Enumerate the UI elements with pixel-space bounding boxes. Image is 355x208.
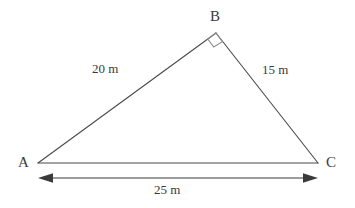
geometry-diagram: A B C 20 m 15 m 25 m bbox=[0, 0, 355, 208]
dimension-arrowhead-right-icon bbox=[303, 173, 318, 183]
triangle-side-bc bbox=[216, 33, 318, 163]
vertex-label-b: B bbox=[210, 9, 220, 24]
dimension-arrowhead-left-icon bbox=[38, 173, 53, 183]
vertex-label-a: A bbox=[18, 155, 29, 170]
side-label-ac: 25 m bbox=[154, 183, 180, 196]
triangle-drawing bbox=[0, 0, 355, 208]
side-label-ab: 20 m bbox=[92, 62, 118, 75]
right-angle-marker-icon bbox=[208, 33, 223, 47]
side-label-bc: 15 m bbox=[262, 63, 288, 76]
vertex-label-c: C bbox=[326, 155, 336, 170]
triangle-side-ab bbox=[38, 33, 216, 163]
